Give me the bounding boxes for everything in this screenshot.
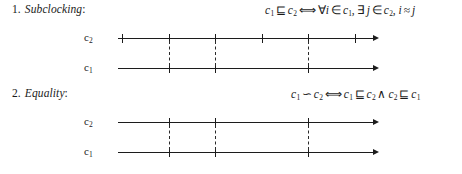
- dashed-link: [169, 41, 170, 66]
- formula-rhs-sub: 2: [293, 9, 297, 18]
- iff-symbol: ⟺: [297, 4, 318, 16]
- timeline-diagram-equality: c2 c1: [0, 110, 462, 166]
- formula-lhs-sub: 1: [296, 93, 300, 102]
- section-number: 2.: [12, 87, 21, 99]
- clock-label-c2-top: c2: [84, 31, 93, 43]
- section-title: Equality: [21, 87, 65, 99]
- term3-var: c: [388, 88, 393, 100]
- clock-label-c1-bottom: c1: [84, 61, 93, 73]
- term2-var: c: [367, 88, 372, 100]
- tick-mark: [122, 34, 123, 43]
- term4-var: c: [411, 88, 416, 100]
- figure-page: 1.Subclocking: c1⊑c2⟺∀i∈c1,∃j∈c2,i≈j c2 …: [0, 0, 462, 174]
- timeline-axis-c1: [118, 152, 376, 153]
- term2-sub: 2: [372, 93, 376, 102]
- clock-label-index: 1: [89, 66, 93, 75]
- element-of-symbol-1: ∈: [329, 4, 343, 16]
- approx-symbol: ≈: [402, 4, 412, 16]
- exists-symbol: ∃: [355, 4, 367, 16]
- element-of-symbol-2: ∈: [370, 4, 384, 16]
- timeline-axis-c1: [118, 68, 376, 69]
- term3-sub: 2: [394, 93, 398, 102]
- section-title: Subclocking: [21, 3, 82, 15]
- timeline-axis-c2: [118, 38, 376, 39]
- dashed-link: [169, 125, 170, 150]
- formula-equality: c1∽c2⟺c1⊑c2∧c2⊑c1: [291, 87, 420, 101]
- arrowhead-icon: [373, 119, 379, 125]
- clock-label-index: 1: [89, 150, 93, 159]
- forall-symbol: ∀: [318, 4, 326, 16]
- formula-subclocking: c1⊑c2⟺∀i∈c1,∃j∈c2,i≈j: [265, 3, 415, 17]
- section-colon: :: [82, 3, 85, 15]
- clock-label-index: 2: [89, 36, 93, 45]
- approx-left-var: i: [396, 4, 402, 16]
- arrowhead-icon: [373, 35, 379, 41]
- set2-sub: 2: [389, 9, 393, 18]
- clock-label-c2-top: c2: [84, 115, 93, 127]
- dashed-link: [308, 41, 309, 66]
- clock-label-c1-bottom: c1: [84, 145, 93, 157]
- term1-sub: 1: [349, 93, 353, 102]
- dashed-link: [215, 41, 216, 66]
- set1-sub: 1: [348, 9, 352, 18]
- iff-symbol: ⟺: [323, 88, 344, 100]
- section-heading-equality: 2.Equality:: [12, 87, 68, 99]
- term4-sub: 1: [417, 93, 421, 102]
- dashed-link: [215, 125, 216, 150]
- arrowhead-icon: [373, 149, 379, 155]
- tick-mark: [262, 34, 263, 43]
- subclock-relation-symbol: ⊑: [274, 4, 288, 16]
- section-heading-subclocking: 1.Subclocking:: [12, 3, 85, 15]
- clock-label-index: 2: [89, 120, 93, 129]
- timeline-axis-c2: [118, 122, 376, 123]
- section-number: 1.: [12, 3, 21, 15]
- subclock-relation-symbol-2: ⊑: [397, 88, 411, 100]
- logical-and-symbol: ∧: [375, 88, 388, 100]
- section-colon: :: [65, 87, 68, 99]
- formula-lhs-sub: 1: [270, 9, 274, 18]
- formula-rhs-sub: 2: [319, 93, 323, 102]
- dashed-link: [308, 125, 309, 150]
- subclock-relation-symbol-1: ⊑: [353, 88, 367, 100]
- equality-relation-symbol: ∽: [300, 88, 314, 100]
- tick-mark: [355, 34, 356, 43]
- arrowhead-icon: [373, 65, 379, 71]
- timeline-diagram-subclocking: c2 c1: [0, 26, 462, 82]
- approx-right-var: j: [412, 4, 415, 16]
